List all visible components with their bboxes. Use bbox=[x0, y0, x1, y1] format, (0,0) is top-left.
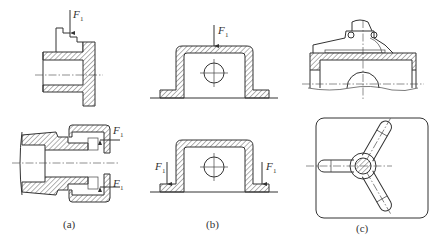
svg-text:1: 1 bbox=[225, 31, 229, 39]
force-label: F bbox=[72, 8, 80, 20]
svg-text:F: F bbox=[217, 24, 225, 36]
technical-figure: F 1 F 1 F 1 (a) F 1 bbox=[0, 0, 432, 240]
svg-text:1: 1 bbox=[120, 184, 124, 192]
panel-c-bottom-spider: (c) bbox=[306, 115, 428, 235]
panel-a-bottom-collet: F 1 F 1 (a) bbox=[12, 124, 124, 231]
svg-text:F: F bbox=[112, 177, 120, 189]
caption-c: (c) bbox=[356, 222, 369, 235]
svg-text:1: 1 bbox=[273, 167, 277, 175]
caption-b: (b) bbox=[206, 218, 219, 231]
svg-text:1: 1 bbox=[162, 167, 166, 175]
svg-text:F: F bbox=[154, 160, 162, 172]
svg-text:F: F bbox=[265, 160, 273, 172]
panel-b-bottom-housing: F 1 F 1 (b) bbox=[150, 140, 278, 231]
caption-a: (a) bbox=[63, 218, 76, 231]
panel-a-top-sleeve: F 1 bbox=[35, 8, 103, 106]
panel-b-top-housing: F 1 bbox=[150, 24, 278, 98]
svg-text:F: F bbox=[112, 124, 120, 136]
svg-text:1: 1 bbox=[120, 131, 124, 139]
panel-c-top-clamp bbox=[302, 20, 424, 100]
svg-text:1: 1 bbox=[80, 15, 84, 23]
